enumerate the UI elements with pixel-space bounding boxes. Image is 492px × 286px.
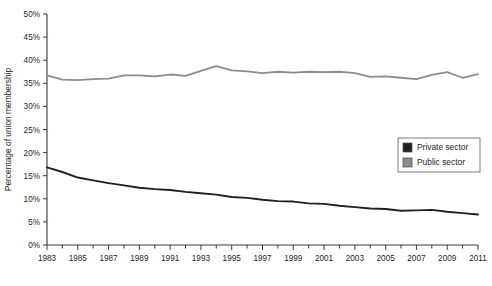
y-tick-label: 45% [24, 33, 40, 42]
y-tick-label: 30% [24, 102, 40, 111]
y-tick-label: 0% [28, 241, 40, 250]
series-line-public-sector [47, 66, 478, 80]
x-tick-label: 1995 [223, 254, 242, 263]
y-tick-label: 15% [24, 172, 40, 181]
x-tick-label: 1989 [130, 254, 149, 263]
x-tick-label: 1987 [99, 254, 118, 263]
union-membership-line-chart: 0%5%10%15%20%25%30%35%40%45%50%198319851… [0, 0, 492, 286]
legend-label-public-sector: Public sector [417, 157, 465, 167]
x-tick-label: 1999 [284, 254, 303, 263]
y-axis-title: Percentage of union membership [3, 67, 13, 191]
legend-swatch-private-sector [403, 143, 412, 152]
legend-swatch-public-sector [403, 158, 412, 167]
x-tick-label: 1993 [192, 254, 211, 263]
y-tick-label: 50% [24, 10, 40, 19]
chart-canvas: 0%5%10%15%20%25%30%35%40%45%50%198319851… [0, 0, 492, 286]
x-tick-label: 2005 [377, 254, 396, 263]
x-tick-label: 2007 [407, 254, 426, 263]
x-tick-label: 2011 [469, 254, 487, 263]
x-tick-label: 2009 [438, 254, 457, 263]
x-tick-label: 2003 [346, 254, 365, 263]
legend-label-private-sector: Private sector [417, 142, 468, 152]
series-line-private-sector [47, 167, 478, 214]
x-tick-label: 1983 [38, 254, 57, 263]
x-tick-label: 1997 [253, 254, 272, 263]
y-tick-label: 20% [24, 149, 40, 158]
y-tick-label: 40% [24, 56, 40, 65]
x-tick-label: 2001 [315, 254, 334, 263]
x-tick-label: 1985 [69, 254, 88, 263]
x-tick-label: 1991 [161, 254, 180, 263]
y-tick-label: 25% [24, 126, 40, 135]
y-tick-label: 5% [28, 218, 40, 227]
y-tick-label: 35% [24, 79, 40, 88]
y-tick-label: 10% [24, 195, 40, 204]
